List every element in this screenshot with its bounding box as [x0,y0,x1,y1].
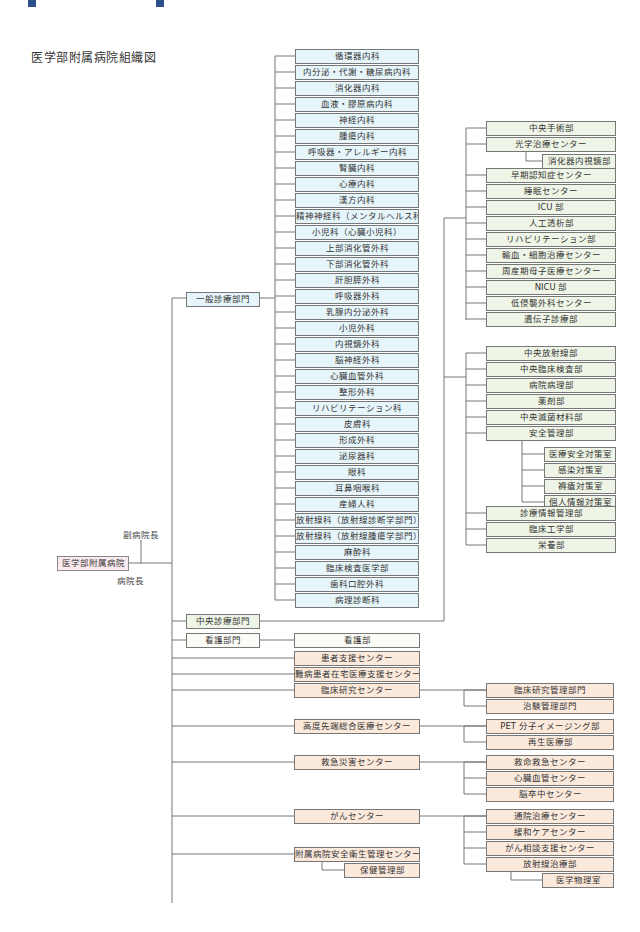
central-unit: 安全管理部 [486,426,616,441]
cancer-center: がんセンター [294,809,420,824]
general-department: 整形外科 [295,385,419,400]
general-department: 小児科（心臓小児科） [295,225,419,240]
general-department: 内視鏡外科 [295,337,419,352]
general-department: 泌尿器科 [295,449,419,464]
nursing-department: 看護部 [294,633,420,648]
central-unit: 中央臨床検査部 [486,362,616,377]
central-unit: ICU 部 [486,200,616,215]
general-department: 臨床検査医学部 [295,561,419,576]
central-unit: 病院病理部 [486,378,616,393]
central-unit: 臨床工学部 [486,522,616,537]
emergency-unit: 救命救急センター [486,755,614,770]
general-department: 腫瘍内科 [295,129,419,144]
cancer-unit: 緩和ケアセンター [486,825,614,840]
central-unit: 遺伝子診療部 [486,312,616,327]
central-unit: 栄養部 [486,538,616,553]
clinical-research-unit: 治験管理部門 [486,699,614,714]
general-department: 眼科 [295,465,419,480]
central-surgery: 中央手術部 [486,121,616,136]
general-department: 心療内科 [295,177,419,192]
health-management-office: 保健管理部 [344,863,420,878]
director-label: 病院長 [117,574,144,586]
central-unit: 中央放射線部 [486,346,616,361]
central-unit: 診療情報管理部 [486,506,616,521]
general-department: 上部消化管外科 [295,241,419,256]
central-unit: 睡眠センター [486,184,616,199]
medical-physics-office: 医学物理室 [542,873,614,888]
cancer-unit: 放射線治療部 [486,857,614,872]
advanced-medical-unit: PET 分子イメージング部 [486,719,614,734]
safety-office: 褥瘡対策室 [544,479,616,494]
general-department: 産婦人科 [295,497,419,512]
patient-support-center: 患者支援センター [294,651,420,666]
clinical-research-center: 臨床研究センター [294,683,420,698]
general-department: 呼吸器・アレルギー内科 [295,145,419,160]
central-optical-center: 光学治療センター [486,137,616,152]
central-unit: NICU 部 [486,280,616,295]
division-central: 中央診療部門 [186,614,260,629]
general-department: 血液・膠原病内科 [295,97,419,112]
central-unit: リハビリテーション部 [486,232,616,247]
general-department: 心臓血管外科 [295,369,419,384]
root-hospital: 医学部附属病院 [57,556,129,571]
general-department: 放射線科（放射線診断学部門） [295,513,419,528]
general-department: 乳腺内分泌外科 [295,305,419,320]
general-department: 肝胆膵外科 [295,273,419,288]
general-department: リハビリテーション科 [295,401,419,416]
general-department: 腎臓内科 [295,161,419,176]
general-department: 循環器内科 [295,49,419,64]
general-department: 麻酔科 [295,545,419,560]
emergency-unit: 脳卒中センター [486,787,614,802]
central-unit: 低侵襲外科センター [486,296,616,311]
general-department: 形成外科 [295,433,419,448]
cancer-unit: 通院治療センター [486,809,614,824]
general-department: 歯科口腔外科 [295,577,419,592]
general-department: 神経内科 [295,113,419,128]
safety-office: 医療安全対策室 [544,447,616,462]
general-department: 精神神経科（メンタルヘルス科） [295,209,419,224]
general-department: 呼吸器外科 [295,289,419,304]
deputy-director-label: 副病院長 [123,528,159,540]
safety-office: 感染対策室 [544,463,616,478]
general-department: 漢方内科 [295,193,419,208]
clinical-research-unit: 臨床研究管理部門 [486,683,614,698]
central-optical-endoscopy: 消化器内視鏡部 [542,154,616,169]
general-department: 皮膚科 [295,417,419,432]
division-general: 一般診療部門 [186,292,260,307]
advanced-medical-unit: 再生医療部 [486,735,614,750]
general-department: 耳鼻咽喉科 [295,481,419,496]
general-department: 消化器内科 [295,81,419,96]
central-unit: 人工透析部 [486,216,616,231]
emergency-disaster-center: 救急災害センター [294,755,420,770]
central-unit: 周産期母子医療センター [486,264,616,279]
emergency-unit: 心臓血管センター [486,771,614,786]
division-nursing: 看護部門 [186,633,260,648]
central-unit: 中央滅菌材料部 [486,410,616,425]
general-department: 小児外科 [295,321,419,336]
cancer-unit: がん相談支援センター [486,841,614,856]
central-unit: 早期認知症センター [486,168,616,183]
intractable-disease-center: 難病患者在宅医療支援センター [294,667,420,682]
safety-health-center: 附属病院安全衛生管理センター [294,847,420,862]
general-department: 放射線科（放射線腫瘍学部門） [295,529,419,544]
central-unit: 輸血・細胞治療センター [486,248,616,263]
general-department: 脳神経外科 [295,353,419,368]
advanced-medical-center: 高度先端総合医療センター [294,719,420,734]
general-department: 下部消化管外科 [295,257,419,272]
central-unit: 薬剤部 [486,394,616,409]
general-department: 内分泌・代謝・糖尿病内科 [295,65,419,80]
general-department: 病理診断科 [295,593,419,608]
